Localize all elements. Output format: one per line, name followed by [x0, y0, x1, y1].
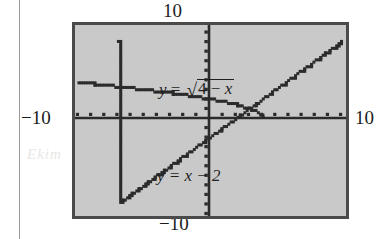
sqrt-lhs: y	[159, 80, 167, 99]
page-margin-rule	[19, 0, 20, 239]
plot-area	[75, 25, 346, 216]
radicand-operator: −	[211, 79, 221, 98]
axis-label-right: 10	[355, 107, 374, 129]
graph-svg	[75, 25, 346, 216]
axis-label-top: 10	[163, 0, 182, 22]
radical-sign-icon: √	[187, 79, 197, 100]
radicand-b: x	[225, 79, 233, 98]
equation-label-sqrt: y = √4 − x	[159, 79, 234, 98]
ghost-text-left: Ekim	[27, 146, 62, 163]
axis-label-left: −10	[21, 107, 51, 129]
radicand: 4 − x	[197, 79, 234, 97]
figure-page: Ekim ta 10 −10 10 −10 y = √4 − x y = x −…	[0, 0, 390, 239]
sqrt-equals: =	[171, 80, 181, 99]
radical-group: √4 − x	[185, 79, 235, 98]
calculator-screen: y = √4 − x y = x − 2	[72, 22, 349, 219]
radicand-a: 4	[198, 79, 207, 98]
equation-label-line: y = x − 2	[157, 167, 221, 184]
